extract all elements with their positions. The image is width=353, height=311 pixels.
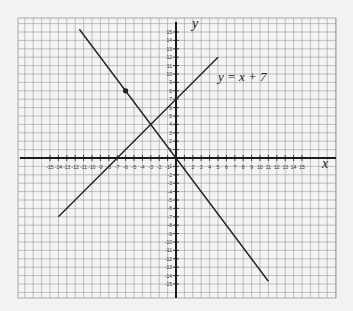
x-tick-label: -13 bbox=[63, 164, 70, 170]
x-tick-label: 12 bbox=[274, 164, 280, 170]
y-tick-label: 11 bbox=[167, 63, 172, 69]
y-tick-label: -14 bbox=[165, 273, 172, 279]
y-tick-label: 13 bbox=[166, 46, 172, 52]
y-tick-label: 5 bbox=[169, 113, 172, 119]
x-tick-label: 9 bbox=[250, 164, 253, 170]
y-tick-label: -13 bbox=[165, 264, 172, 270]
y-tick-label: -1 bbox=[168, 163, 173, 169]
y-tick-label: 10 bbox=[166, 71, 172, 77]
x-tick-label: 10 bbox=[257, 164, 263, 170]
equation-label: y = x + 7 bbox=[216, 69, 267, 84]
y-tick-label: -3 bbox=[168, 180, 173, 186]
x-tick-label: 4 bbox=[208, 164, 211, 170]
y-tick-label: -11 bbox=[165, 247, 172, 253]
x-tick-label: -3 bbox=[149, 164, 154, 170]
y-tick-label: -12 bbox=[165, 256, 172, 262]
y-tick-label: 15 bbox=[166, 29, 172, 35]
y-tick-label: 9 bbox=[169, 79, 172, 85]
coordinate-plane: -15-14-13-12-11-10-9-8-7-6-5-4-3-2-11234… bbox=[0, 0, 353, 311]
y-tick-label: -8 bbox=[168, 222, 173, 228]
x-tick-label: 13 bbox=[282, 164, 288, 170]
x-tick-label: -7 bbox=[115, 164, 120, 170]
x-tick-label: 11 bbox=[266, 164, 271, 170]
x-tick-label: -2 bbox=[157, 164, 162, 170]
y-tick-label: 8 bbox=[169, 88, 172, 94]
x-tick-label: -9 bbox=[98, 164, 103, 170]
y-tick-label: 7 bbox=[169, 96, 172, 102]
y-tick-label: -4 bbox=[168, 189, 173, 195]
x-tick-label: -5 bbox=[132, 164, 137, 170]
y-tick-label: -10 bbox=[165, 239, 172, 245]
x-tick-label: 15 bbox=[299, 164, 305, 170]
x-tick-label: 3 bbox=[200, 164, 203, 170]
x-tick-label: -4 bbox=[140, 164, 145, 170]
x-tick-label: -12 bbox=[72, 164, 79, 170]
x-tick-label: -10 bbox=[88, 164, 95, 170]
y-tick-label: -5 bbox=[168, 197, 173, 203]
y-tick-label: 3 bbox=[169, 130, 172, 136]
x-tick-label: -6 bbox=[123, 164, 128, 170]
x-tick-label: -14 bbox=[55, 164, 62, 170]
y-axis-label: y bbox=[190, 16, 199, 31]
x-axis-label: x bbox=[321, 156, 329, 171]
x-tick-label: 5 bbox=[217, 164, 220, 170]
x-tick-label: 8 bbox=[242, 164, 245, 170]
y-tick-label: 4 bbox=[169, 121, 172, 127]
plotted-points bbox=[123, 88, 128, 93]
y-tick-label: -9 bbox=[168, 231, 173, 237]
y-tick-label: -2 bbox=[168, 172, 173, 178]
x-tick-label: -15 bbox=[46, 164, 53, 170]
y-tick-label: 14 bbox=[166, 37, 172, 43]
y-tick-label: -7 bbox=[168, 214, 173, 220]
x-tick-label: 14 bbox=[291, 164, 297, 170]
y-tick-label: 12 bbox=[166, 54, 172, 60]
y-tick-label: -15 bbox=[165, 281, 172, 287]
x-tick-label: 2 bbox=[191, 164, 194, 170]
x-tick-label: -11 bbox=[80, 164, 87, 170]
y-tick-label: 2 bbox=[169, 138, 172, 144]
plotted-point bbox=[123, 88, 128, 93]
x-tick-label: 6 bbox=[225, 164, 228, 170]
x-tick-label: 7 bbox=[233, 164, 236, 170]
y-tick-label: -6 bbox=[168, 205, 173, 211]
